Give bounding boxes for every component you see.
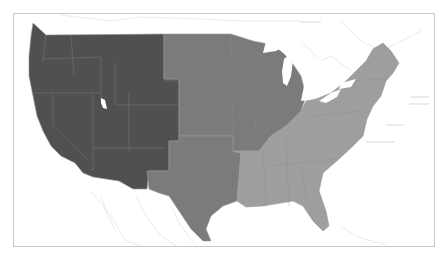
map-container[interactable]: [13, 13, 435, 247]
us-regions-map[interactable]: [14, 14, 434, 246]
